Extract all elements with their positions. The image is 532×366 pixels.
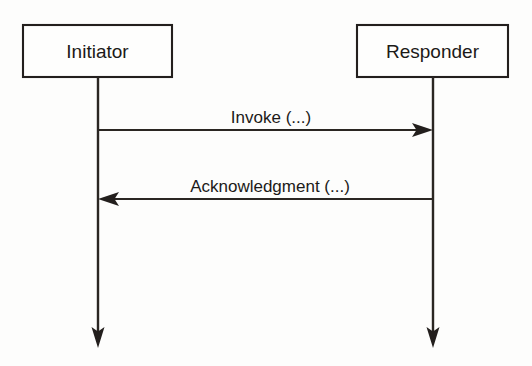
initiator-box-label: Initiator [66,41,129,62]
sequence-diagram-canvas: Initiator Responder Invoke (...) Acknowl… [0,0,532,366]
responder-box-label: Responder [386,41,480,62]
participant-responder[interactable]: Responder [357,25,508,348]
participant-initiator[interactable]: Initiator [23,25,172,348]
message-invoke[interactable]: Invoke (...) [98,108,433,137]
sequence-diagram-svg: Initiator Responder Invoke (...) Acknowl… [0,0,532,366]
message-acknowledgment-label: Acknowledgment (...) [190,177,350,196]
message-acknowledgment[interactable]: Acknowledgment (...) [98,177,433,206]
message-invoke-label: Invoke (...) [231,108,311,127]
